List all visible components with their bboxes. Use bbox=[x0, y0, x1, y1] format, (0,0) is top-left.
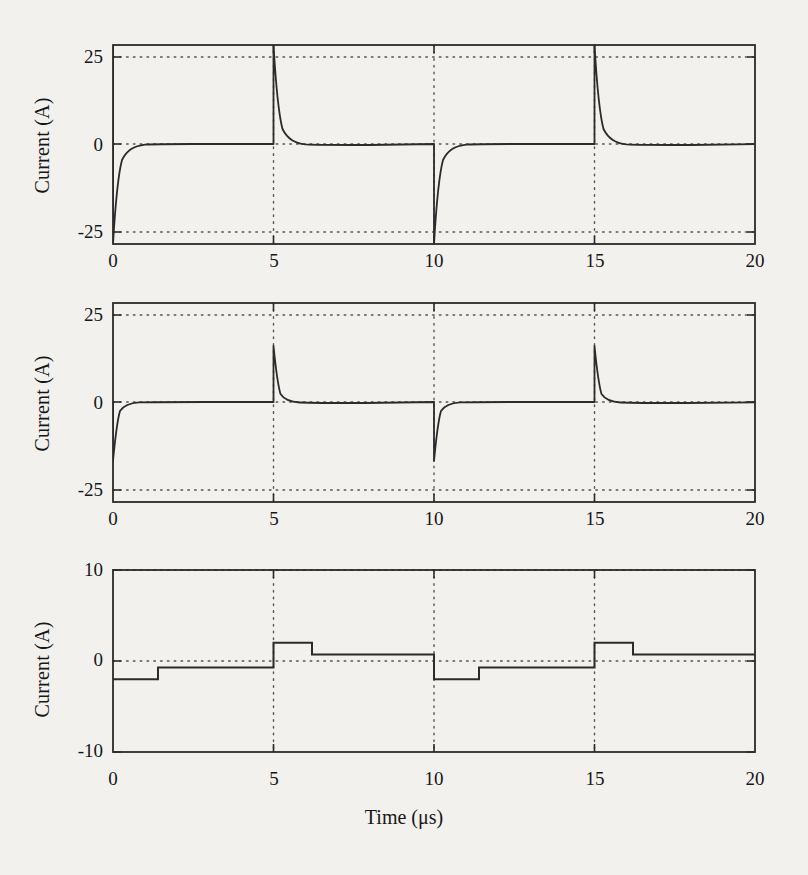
chart-panel-3: Current (A) 10 0 -10 0 5 10 15 20 Time (… bbox=[0, 512, 808, 875]
panel-2-ytick-0: 0 bbox=[55, 392, 103, 414]
panel-3-xtick-10: 10 bbox=[414, 768, 454, 790]
panel-2-waveform bbox=[113, 346, 755, 461]
figure-container: Current (A) 25 0 -25 0 5 10 15 20 bbox=[0, 0, 808, 875]
panel-3-plot bbox=[0, 512, 808, 802]
panel-3-ytick-minus10: -10 bbox=[39, 740, 103, 762]
panel-3-ytick-0: 0 bbox=[55, 649, 103, 671]
panel-3-xtick-15: 15 bbox=[575, 768, 615, 790]
panel-2-ytick-minus25: -25 bbox=[45, 479, 103, 501]
panel-1-ytick-0: 0 bbox=[55, 134, 103, 156]
panel-3-ytick-10: 10 bbox=[49, 559, 103, 581]
panel-1-ytick-25: 25 bbox=[55, 46, 103, 68]
panel-3-xtick-0: 0 bbox=[93, 768, 133, 790]
panel-2-plot bbox=[0, 258, 808, 548]
panel-3-y-axis-label: Current (A) bbox=[31, 595, 54, 745]
panel-3-xtick-5: 5 bbox=[254, 768, 294, 790]
panel-1-waveform bbox=[113, 45, 755, 244]
panel-1-plot bbox=[0, 0, 808, 290]
chart-panel-2: Current (A) 25 0 -25 0 5 10 15 20 bbox=[0, 258, 808, 548]
panel-2-ytick-25: 25 bbox=[55, 304, 103, 326]
panel-1-ytick-minus25: -25 bbox=[45, 221, 103, 243]
panel-3-xtick-20: 20 bbox=[735, 768, 775, 790]
panel-1-y-axis-label: Current (A) bbox=[31, 71, 54, 221]
x-axis-label: Time (μs) bbox=[0, 806, 808, 829]
panel-2-y-axis-label: Current (A) bbox=[31, 329, 54, 479]
chart-panel-1: Current (A) 25 0 -25 0 5 10 15 20 bbox=[0, 0, 808, 290]
